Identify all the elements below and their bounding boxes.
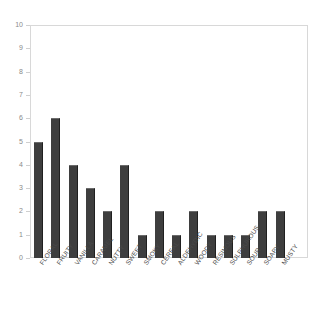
x-axis-label-slot: NUTTY bbox=[100, 259, 117, 321]
y-axis-tick-mark bbox=[26, 165, 30, 166]
y-axis-tick-label: 5 bbox=[19, 137, 23, 146]
y-axis-tick-label: 7 bbox=[19, 90, 23, 99]
bar-slot bbox=[204, 25, 221, 258]
y-axis-tick-mark bbox=[26, 72, 30, 73]
bar-slot bbox=[66, 25, 83, 258]
bar-slot bbox=[100, 25, 117, 258]
bar-slot bbox=[152, 25, 169, 258]
bar-slot bbox=[238, 25, 255, 258]
y-axis-tick-label: 9 bbox=[19, 43, 23, 52]
bar-slot bbox=[48, 25, 65, 258]
x-axis-label-slot: CARAMEL bbox=[83, 259, 100, 321]
bar-slot bbox=[135, 25, 152, 258]
x-axis-label-slot: SWEET bbox=[117, 259, 134, 321]
x-axis-label-slot: SULPHUROUS bbox=[221, 259, 238, 321]
bar-slot bbox=[117, 25, 134, 258]
x-axis-label-slot: SMOKY bbox=[135, 259, 152, 321]
x-axis-label-slot: FLORAL bbox=[31, 259, 48, 321]
x-axis-label-slot: VANILLA bbox=[66, 259, 83, 321]
x-axis-label-slot: SOUR bbox=[238, 259, 255, 321]
y-axis-tick-label: 6 bbox=[19, 113, 23, 122]
x-axis-label-slot: MUSTY bbox=[273, 259, 290, 321]
bar[interactable] bbox=[51, 118, 60, 258]
y-axis-tick-mark bbox=[26, 118, 30, 119]
y-axis: 012345678910 bbox=[0, 25, 30, 258]
y-axis-tick-mark bbox=[26, 211, 30, 212]
y-axis-tick-label: 0 bbox=[19, 253, 23, 262]
y-axis-tick-label: 3 bbox=[19, 183, 23, 192]
y-axis-tick-mark bbox=[26, 48, 30, 49]
x-axis-labels: FLORALFRUITYVANILLACARAMELNUTTYSWEETSMOK… bbox=[31, 259, 307, 321]
x-axis-label-slot: CEREAL bbox=[152, 259, 169, 321]
y-axis-tick-mark bbox=[26, 25, 30, 26]
bar-slot bbox=[83, 25, 100, 258]
bar-slot bbox=[273, 25, 290, 258]
y-axis-tick-mark bbox=[26, 235, 30, 236]
bar-slot bbox=[186, 25, 203, 258]
y-axis-tick-mark bbox=[26, 188, 30, 189]
y-axis-tick-label: 8 bbox=[19, 67, 23, 76]
y-axis-tick-label: 4 bbox=[19, 160, 23, 169]
y-axis-tick-mark bbox=[26, 95, 30, 96]
bar-slot bbox=[221, 25, 238, 258]
y-axis-tick-label: 1 bbox=[19, 230, 23, 239]
y-axis-tick-label: 10 bbox=[15, 20, 23, 29]
x-axis-label-slot: RESINOUS bbox=[204, 259, 221, 321]
y-axis-tick-mark bbox=[26, 142, 30, 143]
x-axis-label-slot: SOAPY bbox=[255, 259, 272, 321]
y-axis-tick-label: 2 bbox=[19, 206, 23, 215]
bar-slot bbox=[169, 25, 186, 258]
x-axis-label-slot: FRUITY bbox=[48, 259, 65, 321]
x-axis-label-slot: ALDEHYDIC bbox=[169, 259, 186, 321]
bar-chart: 012345678910 FLORALFRUITYVANILLACARAMELN… bbox=[0, 0, 320, 322]
bars-layer bbox=[31, 25, 307, 258]
bar-slot bbox=[31, 25, 48, 258]
x-axis-label-slot: WOODY bbox=[186, 259, 203, 321]
y-axis-tick-mark bbox=[26, 258, 30, 259]
bar[interactable] bbox=[34, 142, 43, 259]
bar-slot bbox=[255, 25, 272, 258]
